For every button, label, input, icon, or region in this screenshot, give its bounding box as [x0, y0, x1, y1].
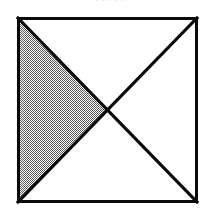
- square-diagonals-figure-svg: [0, 0, 219, 216]
- geometric-figure: [0, 0, 219, 216]
- figure-page: . . . . .: [0, 0, 219, 216]
